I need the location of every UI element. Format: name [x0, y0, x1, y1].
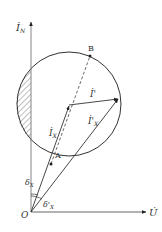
point-a — [50, 163, 53, 166]
locus-circle — [17, 52, 121, 156]
vector-ip-label: İ' — [89, 88, 96, 99]
diameter-ab — [51, 56, 90, 164]
angle-delta-xp-label: δ'X — [43, 200, 55, 210]
vector-ixp-label: İ'X — [87, 115, 99, 127]
point-b-label: B — [88, 44, 94, 53]
vector-ix — [31, 106, 69, 212]
vector-ip — [69, 99, 118, 105]
point-a-label: A — [54, 151, 61, 160]
vector-ixp — [31, 99, 118, 212]
axis-label-in: İN — [15, 22, 26, 34]
origin-label: O — [21, 210, 29, 220]
point-b — [89, 55, 92, 58]
vector-ix-label: İX — [48, 127, 58, 139]
axis-label-u: U̇ — [149, 207, 158, 218]
angle-delta-x-label: δX — [25, 178, 35, 188]
phasor-diagram: İN U̇ O A B İX İ'X İ' δX δ'X — [0, 0, 162, 232]
angle-arc-delta-x — [31, 196, 37, 197]
